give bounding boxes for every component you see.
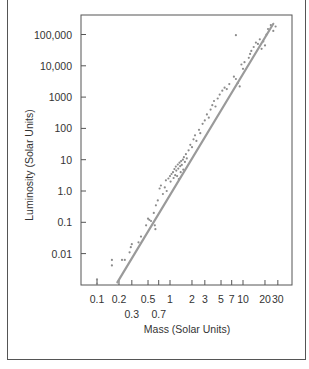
x-tick-label: 0.5 (141, 293, 156, 305)
data-point (111, 264, 113, 266)
data-point (170, 181, 172, 183)
x-tick-label: 0.1 (90, 293, 105, 305)
y-tick-label: 10,000 (40, 60, 72, 72)
data-point (186, 157, 188, 159)
x-tick-label: 5 (218, 293, 224, 305)
data-point (233, 76, 235, 78)
x-tick-label: 1 (167, 293, 173, 305)
x-tick-label: 3 (202, 293, 208, 305)
data-point (185, 153, 187, 155)
data-point (181, 164, 183, 166)
data-point (177, 168, 179, 170)
data-point (145, 224, 147, 226)
x-tick-label: 10 (237, 293, 249, 305)
data-point (140, 236, 142, 238)
data-point (124, 259, 126, 261)
x-tick-label: 0.7 (151, 308, 166, 320)
data-point (195, 140, 197, 142)
data-point (228, 83, 230, 85)
data-point (184, 161, 186, 163)
data-point (204, 119, 206, 121)
data-point (175, 166, 177, 168)
data-point (257, 43, 259, 45)
x-tick-label: 0.3 (125, 308, 140, 320)
data-point (170, 173, 172, 175)
data-point (162, 193, 164, 195)
data-point (180, 160, 182, 162)
data-point (177, 163, 179, 165)
x-tick-label: 0.2 (112, 293, 127, 305)
data-point (176, 175, 178, 177)
y-tick-label: 0.01 (52, 248, 73, 260)
data-point (264, 44, 266, 46)
data-point (96, 278, 98, 280)
data-point (167, 177, 169, 179)
data-point (208, 117, 210, 119)
data-point (202, 123, 204, 125)
data-point (206, 113, 208, 115)
data-point (214, 105, 216, 107)
data-point (235, 34, 237, 36)
data-point (275, 25, 277, 27)
data-point (96, 283, 98, 285)
data-point (159, 187, 161, 189)
data-point (248, 57, 250, 59)
data-point (157, 199, 159, 201)
data-point (164, 186, 166, 188)
x-tick-label: 2 (189, 293, 195, 305)
data-point (217, 97, 219, 99)
y-axis: 100,00010,0001000100101.00.10.01 (34, 29, 86, 260)
y-axis-title: Luminosity (Solar Units) (23, 109, 35, 220)
data-point (172, 171, 174, 173)
data-point (210, 109, 212, 111)
x-tick-label: 30 (272, 293, 284, 305)
data-point (165, 179, 167, 181)
data-point (249, 53, 251, 55)
data-point (259, 38, 261, 40)
data-point (191, 146, 193, 148)
data-point (121, 259, 123, 261)
data-point (111, 259, 113, 261)
data-point (174, 174, 176, 176)
data-point (253, 46, 255, 48)
data-point (198, 129, 200, 131)
data-point (130, 246, 132, 248)
data-point (194, 134, 196, 136)
data-point (169, 175, 171, 177)
data-point (173, 177, 175, 179)
data-point (213, 100, 215, 102)
y-tick-label: 100 (54, 122, 72, 134)
data-point (183, 156, 185, 158)
x-axis: 0.10.20.30.50.712357102030 (90, 280, 284, 320)
data-point (224, 87, 226, 89)
data-point (240, 63, 242, 65)
y-tick-label: 1.0 (57, 185, 72, 197)
data-point (219, 94, 221, 96)
data-point (173, 168, 175, 170)
mass-luminosity-chart: 100,00010,0001000100101.00.10.01 0.10.20… (0, 0, 309, 369)
data-point (188, 149, 190, 151)
data-point (192, 138, 194, 140)
x-tick-label: 7 (229, 293, 235, 305)
data-point (189, 144, 191, 146)
data-point (255, 42, 257, 44)
plot-area (81, 15, 292, 285)
data-point (211, 104, 213, 106)
data-point (178, 162, 180, 164)
data-point (131, 243, 133, 245)
data-point (235, 78, 237, 80)
y-tick-label: 100,000 (34, 29, 72, 41)
data-point (242, 68, 244, 70)
data-point (153, 212, 155, 214)
data-point (166, 190, 168, 192)
data-point (175, 170, 177, 172)
x-tick-label: 20 (259, 293, 271, 305)
data-point (239, 85, 241, 87)
data-point (250, 50, 252, 52)
y-tick-label: 0.1 (57, 216, 72, 228)
data-point (182, 159, 184, 161)
data-point (261, 48, 263, 50)
y-tick-label: 10 (60, 154, 72, 166)
data-point (180, 171, 182, 173)
data-point (154, 228, 156, 230)
